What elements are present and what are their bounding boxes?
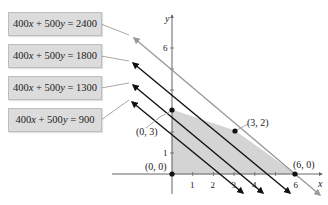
eq-plus: + 500 xyxy=(33,18,60,29)
linear-programming-figure: 1 2 3 4 6 1 6 x y (0, 3) (3, 2) xyxy=(0,0,328,205)
vertex-label-6-0: (6, 0) xyxy=(293,159,315,171)
eq-plus: + 500 xyxy=(36,114,63,125)
vertex-3-2 xyxy=(232,128,237,133)
x-axis-label: x xyxy=(317,178,323,189)
x-tick-label-2: 2 xyxy=(211,180,216,190)
x-tick-label-6: 6 xyxy=(294,180,299,190)
vertex-label-3-2: (3, 2) xyxy=(247,117,269,129)
eq-coef: 400 xyxy=(13,18,29,29)
eq-coef: 400 xyxy=(16,114,32,125)
equation-label-2400: 400x + 500y = 2400 xyxy=(8,12,102,36)
eq-rhs: = 900 xyxy=(68,114,95,125)
feasible-region xyxy=(172,110,295,174)
y-axis-label: y xyxy=(164,13,170,24)
eq-coef: 400 xyxy=(13,50,29,61)
eq-plus: + 500 xyxy=(33,50,60,61)
vertex-6-0 xyxy=(292,171,297,176)
equation-label-1300: 400x + 500y = 1300 xyxy=(8,76,102,100)
y-tick-label-6: 6 xyxy=(163,43,168,53)
eq-rhs: = 1300 xyxy=(65,82,97,93)
eq-plus: + 500 xyxy=(33,82,60,93)
vertex-label-0-3: (0, 3) xyxy=(136,126,158,138)
eq-rhs: = 2400 xyxy=(65,18,97,29)
y-tick-label-1: 1 xyxy=(163,148,168,158)
eq-coef: 400 xyxy=(13,82,29,93)
eq-rhs: = 1800 xyxy=(65,50,97,61)
vertex-label-0-0: (0, 0) xyxy=(145,161,167,173)
vertex-0-3 xyxy=(169,107,174,112)
vertex-0-0 xyxy=(169,171,174,176)
equation-label-900: 400x + 500y = 900 xyxy=(8,108,102,132)
equation-label-1800: 400x + 500y = 1800 xyxy=(8,44,102,68)
x-tick-label-1: 1 xyxy=(190,180,195,190)
